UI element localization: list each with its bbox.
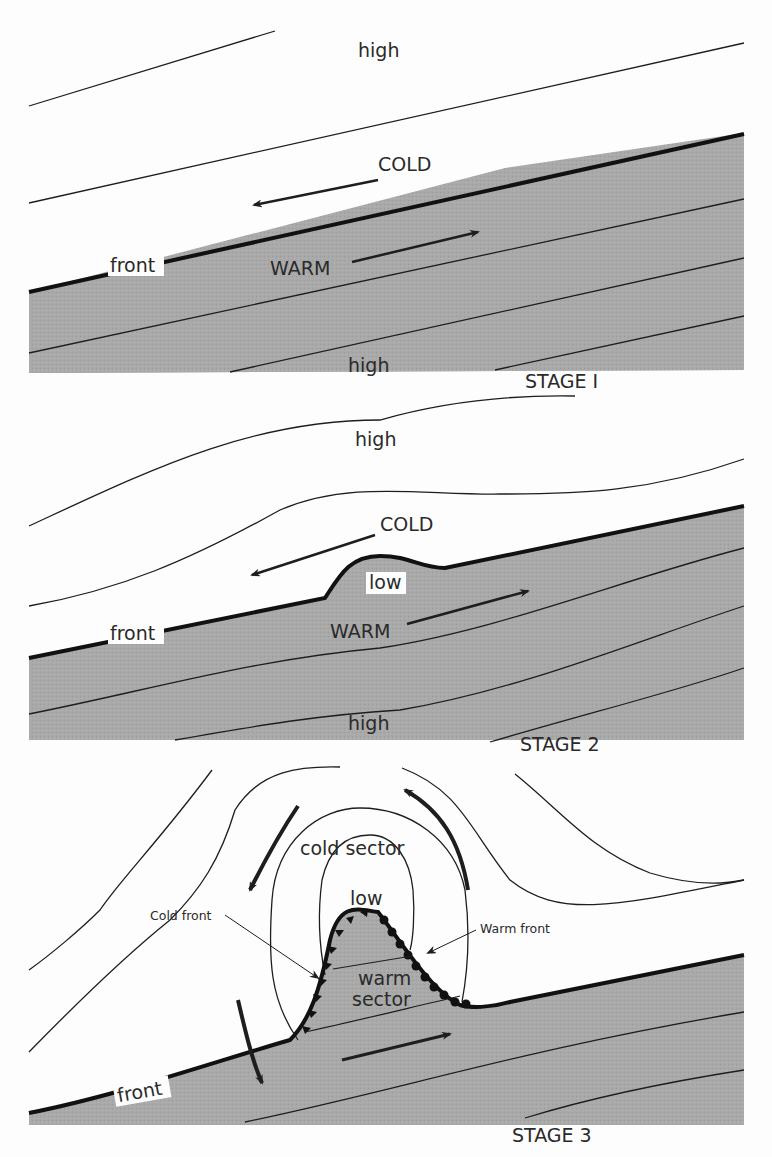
isobar: [29, 770, 212, 970]
cold-air-arrow: [254, 180, 378, 205]
warm-label: WARM: [330, 620, 390, 642]
warm-front-leader: [428, 930, 476, 953]
stage-2-panel: high COLD low WARM front high STAGE 2: [29, 396, 744, 755]
isobar: [29, 31, 275, 106]
stage-label: STAGE 2: [520, 733, 600, 755]
cold-label: COLD: [380, 513, 433, 535]
circulation-arrow: [250, 806, 298, 890]
low-label: low: [369, 571, 401, 593]
stage-label: STAGE I: [525, 370, 598, 392]
warm-label: WARM: [270, 257, 330, 279]
warm-sector-label-2: sector: [352, 988, 411, 1010]
circulation-arrow: [405, 790, 468, 890]
high-label: high: [358, 39, 399, 61]
cold-front-label: Cold front: [150, 908, 212, 923]
stage-label: STAGE 3: [512, 1124, 592, 1146]
high-label: high: [355, 428, 396, 450]
stage-1-panel: high COLD WARM front high STAGE I: [29, 31, 744, 392]
high-label: high: [348, 712, 389, 734]
frontal-depression-diagram: high COLD WARM front high STAGE I high C…: [0, 0, 772, 1157]
front-label: front: [110, 622, 155, 644]
isobar: [29, 396, 575, 526]
front-label: front: [110, 254, 155, 276]
warm-front-label: Warm front: [480, 921, 550, 936]
cold-label: COLD: [378, 153, 431, 175]
high-label: high: [348, 354, 389, 376]
warm-sector-label-1: warm: [358, 967, 411, 989]
stage-3-panel: cold sector low Cold front Warm front wa…: [29, 767, 744, 1146]
cold-sector-label: cold sector: [300, 837, 405, 859]
isobar: [515, 774, 744, 883]
isobar: [515, 774, 744, 854]
low-label: low: [350, 887, 382, 909]
